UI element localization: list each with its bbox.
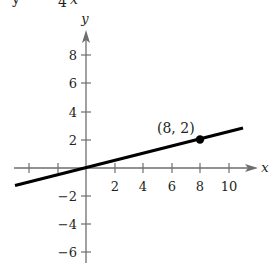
x-axis-label: x (261, 160, 269, 175)
equation-lhs: y (11, 0, 20, 7)
y-axis-label: y (80, 11, 89, 26)
point-label: (8, 2) (157, 120, 195, 136)
equation-header: y 4 x (11, 0, 78, 10)
y-tick-label: −2 (58, 189, 77, 204)
graph: y 4 x 2 4 6 8 10 x (0, 0, 271, 263)
x-tick-label: 8 (196, 179, 204, 194)
x-tick-label: 10 (221, 179, 238, 194)
equation-var: x (70, 0, 78, 7)
x-tick-label: 2 (111, 179, 119, 194)
equation-denominator: 4 (58, 0, 67, 10)
x-tick-label: 6 (168, 179, 176, 194)
y-axis: 8 6 4 2 −2 −4 −6 y (58, 11, 91, 263)
x-tick-label: 4 (139, 179, 147, 194)
x-tick-labels: 2 4 6 8 10 (111, 179, 237, 194)
y-tick-label: 6 (69, 76, 77, 91)
y-tick-label: 8 (69, 48, 77, 63)
y-tick-label: 2 (69, 133, 77, 148)
y-tick-label: 4 (69, 105, 77, 120)
y-tick-label: −4 (58, 217, 77, 232)
y-tick-label: −6 (58, 245, 77, 260)
y-tick-labels: 8 6 4 2 −2 −4 −6 (58, 48, 77, 260)
point-marker (196, 135, 204, 143)
line-series (15, 128, 243, 186)
